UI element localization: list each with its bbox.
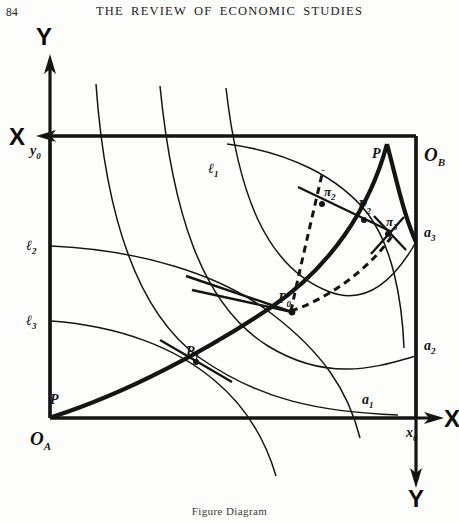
axes-group [36, 54, 444, 488]
origin-B-subscript: B [437, 156, 445, 168]
x-axis-left-label: X [9, 123, 25, 150]
origin-A-base: O [30, 428, 44, 449]
curve-label-a1: a1 [362, 392, 374, 410]
journal-page: 84 THE REVIEW OF ECONOMIC STUDIES [0, 0, 459, 524]
curve-label-a3-base: a [424, 225, 431, 240]
edgeworth-box-edges [50, 136, 416, 418]
point-label-pi2-sub: 2 [330, 192, 336, 202]
curve-label-l3-sub: 3 [31, 321, 37, 331]
point-label-P0-sub: 0 [287, 299, 292, 309]
y-axis-top-label: Y [36, 23, 52, 50]
point-pi3-marker [385, 231, 391, 237]
point-markers-group [193, 201, 391, 365]
y0-tick-label: y0 [28, 143, 41, 161]
curve-label-a2: a2 [424, 338, 436, 356]
curve-label-l2-sub: 2 [31, 246, 37, 256]
point-label-P-top: P [372, 146, 381, 161]
curve-a1 [96, 84, 398, 415]
origin-B-base: O [424, 144, 438, 165]
curve-label-a1-base: a [362, 392, 369, 407]
curve-label-l2: ℓ2 [26, 238, 37, 256]
curve-label-a1-sub: 1 [369, 400, 374, 410]
curve-l3 [51, 321, 276, 476]
origin-A-label: OA [30, 428, 51, 452]
point-label-P2-sub: 2 [366, 206, 372, 216]
point-P0-marker [289, 309, 296, 316]
tick-labels-group: y0 x0 [28, 143, 418, 443]
origin-B-label: OB [424, 144, 445, 168]
page-title: THE REVIEW OF ECONOMIC STUDIES [0, 4, 459, 19]
curve-label-l3: ℓ3 [26, 313, 37, 331]
contract-curve-group [52, 144, 416, 417]
curve-labels-group: ℓ1 ℓ2 ℓ3 a1 a2 a3 [26, 161, 436, 410]
x-axis-right-label: X [444, 405, 459, 432]
origin-A-subscript: A [43, 440, 51, 452]
curve-label-a2-base: a [424, 338, 431, 353]
curve-label-l1: ℓ1 [208, 161, 218, 179]
curve-label-l1-sub: 1 [214, 169, 219, 179]
point-labels-group: P P1 P0 P2 P π2 π3 [50, 146, 398, 407]
curve-label-a3-sub: 3 [430, 233, 436, 243]
price-line-P0-a [186, 276, 292, 312]
indifference-curves-a [96, 84, 416, 415]
point-pi2-marker [319, 201, 325, 207]
point-label-P: P [50, 392, 59, 407]
point-label-P-base: P [50, 392, 59, 407]
point-label-P1-sub: 1 [195, 352, 200, 362]
origin-labels-group: OA OB [30, 144, 445, 452]
figure-caption: Figure Diagram [0, 505, 459, 517]
curve-label-a2-sub: 2 [430, 346, 436, 356]
price-line-P2 [298, 187, 392, 232]
point-P2-marker [361, 217, 367, 223]
x0-base: x [405, 425, 413, 440]
x0-subscript: 0 [413, 433, 418, 443]
edgeworth-box-figure: Y X X Y OA OB y0 x0 [0, 18, 459, 508]
point-label-pi3-sub: 3 [392, 222, 398, 232]
point-label-P-top-base: P [372, 146, 381, 161]
curve-label-a3: a3 [424, 225, 436, 243]
y0-subscript: 0 [36, 151, 41, 161]
